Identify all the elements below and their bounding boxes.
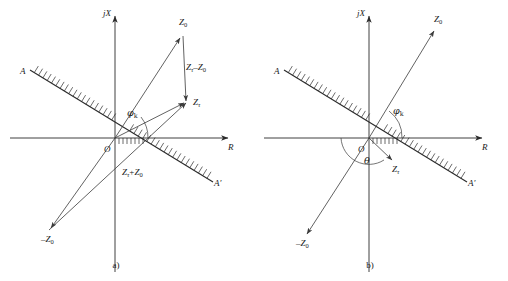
panel-b-label-minus-z0: –Z0 (295, 238, 309, 249)
panel-a-vector-z-tau (115, 103, 184, 138)
panel-a-x-axis-label: R (227, 142, 234, 152)
panel-a-caption: a) (113, 260, 120, 270)
panel-b-hatching (288, 66, 465, 178)
panel-a-label-z-tau-minus-z0: Zτ–Z0 (186, 62, 206, 73)
panel-b-y-axis-label: jX (356, 8, 366, 18)
panel-b-caption: b) (366, 260, 374, 270)
panel-b-label-z0: Z0 (434, 14, 442, 25)
panel-b-boundary-end-label: A′ (467, 178, 476, 188)
panel-a-label-z0: Z0 (179, 17, 187, 28)
panel-b-origin-hatch (373, 138, 397, 144)
panel-a-y-axis-label: jX (102, 8, 112, 18)
panel-b-origin-label: O (358, 144, 365, 154)
panel-a-boundary-start-label: A (19, 66, 26, 76)
panel-b-boundary-start-label: A (273, 66, 280, 76)
panel-a-boundary-end-label: A′ (213, 178, 222, 188)
panel-a-label-phi-k: φk (127, 107, 138, 120)
panel-b-x-axis-label: R (481, 142, 488, 152)
panel-a-label-minus-z0: –Z0 (40, 234, 54, 245)
panel-b-label-theta: θ (364, 155, 370, 166)
panel-a-vector-z-tau-plus-z0 (49, 103, 186, 230)
diagram-canvas: jX R O A A′ Z0 Zτ –Z0 (0, 0, 508, 281)
panel-a-vector-z0 (115, 38, 180, 138)
panel-a-group: jX R O A A′ Z0 Zτ –Z0 (10, 8, 234, 272)
panel-a-label-z-tau: Zτ (193, 97, 201, 108)
panel-a-origin-label: O (104, 144, 111, 154)
panel-a-angle-arc-phi-k (141, 117, 148, 138)
panel-b-group: jX R O A A′ Z0 Zτ –Z0 (264, 8, 488, 272)
panel-a-origin-hatch (119, 138, 143, 144)
panel-b-vector-z0 (369, 31, 434, 138)
impedance-diagram-figure: jX R O A A′ Z0 Zτ –Z0 (0, 0, 508, 281)
panel-b-label-z-tau: Zτ (392, 164, 400, 175)
panel-a-label-z-tau-plus-z0: Zτ+Z0 (122, 167, 143, 178)
panel-b-vector-z-tau (369, 138, 392, 160)
